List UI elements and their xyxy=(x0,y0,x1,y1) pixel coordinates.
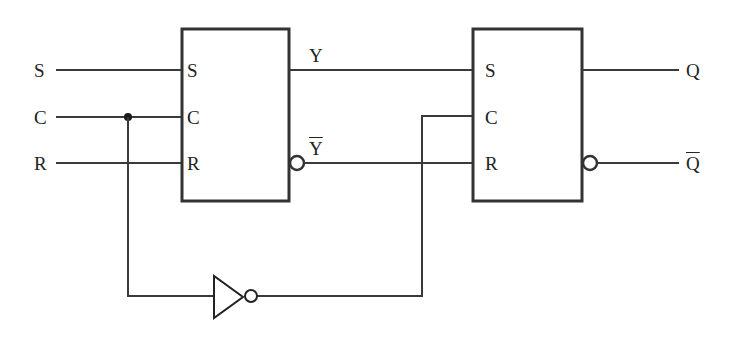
circuit-wires xyxy=(0,0,738,354)
label-input-s: S xyxy=(34,61,45,80)
inverter-bubble xyxy=(245,290,257,302)
slave-pin-r: R xyxy=(485,154,498,173)
label-y-bar: Y xyxy=(309,139,323,158)
slave-pin-s: S xyxy=(485,61,496,80)
label-y: Y xyxy=(309,46,323,65)
master-pin-c: C xyxy=(187,108,200,127)
label-input-c: C xyxy=(34,108,47,127)
master-pin-r: R xyxy=(187,154,200,173)
master-inversion-bubble xyxy=(290,156,304,170)
slave-inversion-bubble xyxy=(583,156,597,170)
flip-flop-diagram: S C R S C R Y Y S C R Q Q xyxy=(0,0,738,354)
label-q-bar: Q xyxy=(686,154,700,173)
master-pin-s: S xyxy=(187,61,198,80)
label-input-r: R xyxy=(34,154,47,173)
slave-pin-c: C xyxy=(485,108,498,127)
inverter-triangle xyxy=(214,276,243,318)
label-q: Q xyxy=(686,61,700,80)
